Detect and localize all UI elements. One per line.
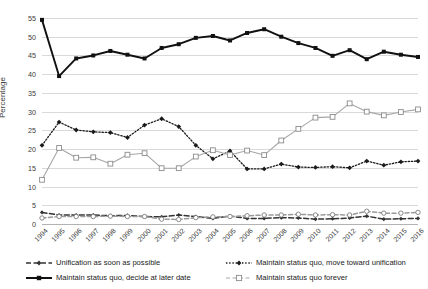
series-marker (399, 159, 404, 164)
y-axis-tick-label: 30 (6, 107, 36, 116)
series-marker (245, 214, 249, 218)
series-marker (364, 159, 369, 164)
series-marker (347, 213, 351, 217)
series-marker (211, 34, 215, 38)
series-marker (228, 38, 232, 42)
series-marker (177, 217, 181, 221)
series-marker (330, 212, 334, 216)
series-marker (296, 41, 300, 45)
series-marker (40, 177, 45, 182)
y-axis-tick-label: 20 (6, 145, 36, 154)
series-marker (159, 116, 164, 121)
series-marker (296, 126, 301, 131)
series-marker (296, 212, 300, 216)
series-marker (381, 163, 386, 168)
series-marker (142, 151, 147, 156)
y-axis-tick-label: 35 (6, 88, 36, 97)
series-marker (262, 153, 267, 158)
series-marker (125, 152, 130, 157)
series-marker (313, 217, 317, 221)
data-series (40, 18, 420, 78)
series-marker (382, 211, 386, 215)
series-marker (399, 217, 403, 221)
series-marker (91, 214, 95, 218)
series-marker (382, 50, 386, 54)
series-marker (40, 216, 44, 220)
legend-label: Maintain status quo forever (256, 273, 348, 283)
series-marker (364, 109, 369, 114)
gridline (42, 224, 418, 225)
series-marker (74, 56, 78, 60)
series-marker (416, 107, 421, 112)
series-marker (313, 46, 317, 50)
series-marker (57, 146, 62, 151)
series-marker (108, 49, 112, 53)
series-marker (313, 213, 317, 217)
series-marker (194, 36, 198, 40)
y-axis-tick-label: 25 (6, 126, 36, 135)
y-axis-tick-label: 50 (6, 32, 36, 41)
y-axis-tick-label: 0 (6, 220, 36, 229)
legend-key-icon (226, 258, 252, 268)
series-marker (159, 166, 164, 171)
series-marker (416, 159, 421, 164)
series-marker (279, 35, 283, 39)
series-marker (331, 54, 335, 58)
legend-label: Maintain status quo, move toward unifica… (256, 258, 406, 268)
legend-item[interactable]: Maintain status quo, move toward unifica… (226, 258, 406, 268)
legend-label: Maintain status quo, decide at later dat… (56, 273, 191, 283)
series-marker (416, 216, 420, 220)
plot-area: 0510152025303540455055 19941995199619971… (42, 18, 418, 224)
y-axis-tick-label: 10 (6, 182, 36, 191)
series-marker (382, 217, 386, 221)
data-series (40, 116, 421, 171)
series-marker (296, 165, 301, 170)
series-marker (211, 215, 215, 219)
legend-key-icon (26, 273, 52, 283)
y-axis-tick-label: 55 (6, 14, 36, 23)
y-axis-tick-label: 15 (6, 163, 36, 172)
series-marker (193, 154, 198, 159)
series-marker (330, 114, 335, 119)
legend-item[interactable]: Maintain status quo, decide at later dat… (26, 273, 191, 283)
chart-legend: Unification as soon as possibleMaintain … (14, 258, 418, 288)
series-marker (91, 155, 96, 160)
series-marker (347, 165, 352, 170)
series-marker (57, 74, 61, 78)
series-marker (194, 215, 198, 219)
series-line (42, 119, 418, 169)
series-marker (74, 214, 78, 218)
y-axis-tick-label: 45 (6, 51, 36, 60)
series-marker (399, 110, 404, 115)
legend-item[interactable]: Maintain status quo forever (226, 273, 348, 283)
y-axis-tick-label: 5 (6, 201, 36, 210)
series-marker (365, 209, 369, 213)
series-marker (40, 18, 44, 22)
series-marker (416, 55, 420, 59)
series-marker (74, 128, 79, 133)
series-marker (245, 148, 250, 153)
series-marker (177, 213, 181, 217)
series-marker (108, 214, 112, 218)
series-marker (176, 166, 181, 171)
series-marker (160, 46, 164, 50)
series-marker (279, 138, 284, 143)
series-marker (330, 164, 335, 169)
legend-key-icon (26, 258, 52, 268)
legend-label: Unification as soon as possible (56, 258, 160, 268)
series-marker (125, 53, 129, 57)
series-marker (348, 48, 352, 52)
series-marker (108, 161, 113, 166)
series-marker (228, 214, 232, 218)
y-axis-tick-label: 40 (6, 70, 36, 79)
series-marker (313, 115, 318, 120)
series-line (42, 103, 418, 179)
series-marker (159, 217, 163, 221)
series-marker (347, 101, 352, 106)
series-marker (211, 148, 216, 153)
series-marker (228, 153, 233, 158)
series-marker (40, 210, 44, 214)
series-marker (262, 167, 267, 172)
series-marker (177, 42, 181, 46)
legend-item[interactable]: Unification as soon as possible (26, 258, 160, 268)
